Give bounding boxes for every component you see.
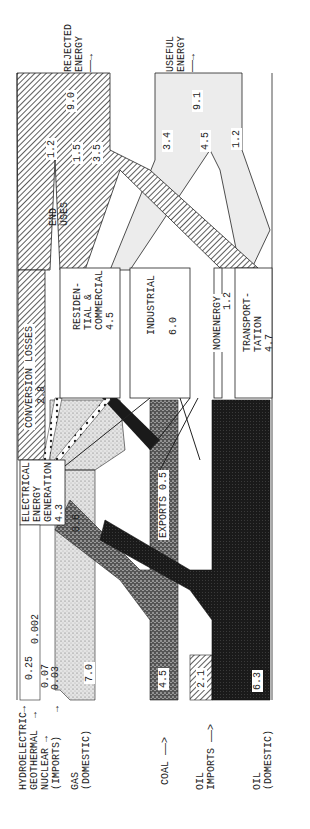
electrical-generation-label: ELECTRICAL ENERGY GENERATION 4.3 xyxy=(21,462,65,522)
residential-label: RESIDEN- TIAL & COMMERCIAL 4.5 xyxy=(72,270,116,330)
end-uses-header: END USES xyxy=(48,202,70,226)
transportation-label: TRANSPORT- TATION 4.7 xyxy=(242,292,275,352)
sankey-diagram xyxy=(0,0,310,829)
rejected-from-transport: 3.5 xyxy=(92,142,103,164)
rejected-total-value: 9.0 xyxy=(66,90,77,112)
oil-domestic-label: OIL (DOMESTIC) xyxy=(252,730,274,790)
coal-value: 4.5 xyxy=(158,668,169,690)
geothermal-value: 0.002 xyxy=(30,614,41,644)
conversion-losses-value: 2.8 xyxy=(36,386,47,404)
oil-flow xyxy=(100,400,270,700)
useful-from-industrial: 4.5 xyxy=(200,130,211,152)
industrial-label: INDUSTRIAL 6.0 xyxy=(146,275,179,335)
useful-from-residential: 3.4 xyxy=(162,130,173,152)
exports-label: EXPORTS 0.5 xyxy=(158,470,169,540)
gas-to-electric-value: 0.6 xyxy=(71,514,82,532)
oil-imports-label: OIL IMPORTS ——> xyxy=(195,724,217,790)
rejected-energy-label: REJECTED ENERGY ——→ xyxy=(63,24,96,72)
rejected-from-industrial: 1.5 xyxy=(72,142,83,164)
nonenergy-value: 1.2 xyxy=(222,292,233,310)
gas-label: GAS (DOMESTIC) xyxy=(70,730,92,790)
imports-value: 0.03 xyxy=(50,666,61,690)
coal-label: COAL ——> xyxy=(160,737,171,785)
hydro-value: 0.25 xyxy=(24,656,35,680)
hydro-label: HYDROELECTRIC→ GEOTHERMAL → NUCLEAR → (I… xyxy=(18,706,62,790)
oil-domestic-value: 6.3 xyxy=(252,670,263,692)
useful-total-value: 9.1 xyxy=(192,90,203,112)
useful-from-transport: 1.2 xyxy=(231,128,242,150)
gas-value: 7.0 xyxy=(84,662,95,684)
oil-imports-value: 2.1 xyxy=(196,668,207,690)
useful-energy-label: USEFUL ENERGY ——→ xyxy=(165,36,198,72)
conversion-losses-label: CONVERSION LOSSES xyxy=(24,324,35,430)
rejected-from-residential: 1.2 xyxy=(46,138,57,160)
